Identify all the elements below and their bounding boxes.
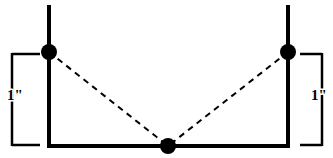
geometry-diagram: 1" 1": [0, 0, 333, 158]
left-dimension-label: 1": [7, 87, 23, 103]
diagram-canvas: 1" 1": [0, 0, 333, 158]
center-node-dot: [160, 138, 176, 154]
right-node-dot: [280, 44, 296, 60]
left-node-dot: [41, 44, 57, 60]
right-dimension-label: 1": [311, 87, 327, 103]
